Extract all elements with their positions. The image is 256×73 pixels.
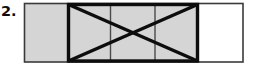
shaded-region: [25, 4, 199, 63]
figure-root: 2.: [0, 0, 256, 73]
partitioned-rectangle-diagram: [0, 0, 256, 73]
unshaded-region: [198, 4, 243, 63]
